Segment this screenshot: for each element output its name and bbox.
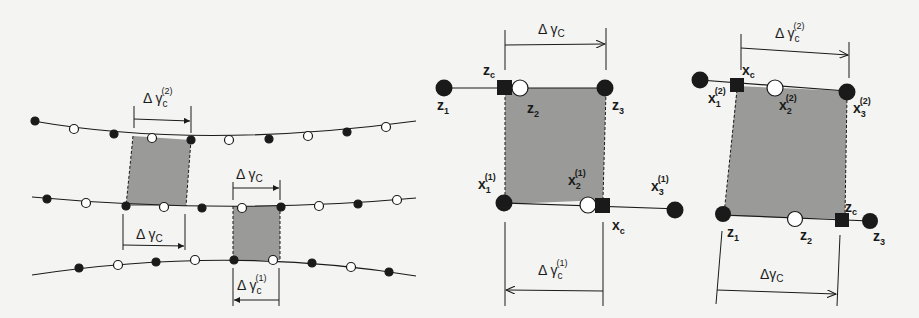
label-x3-1: x3(1) [651,174,669,197]
point-z2-right [788,212,803,227]
label-delta-gamma-c-mid-right: Δ γC [236,166,263,184]
label-xc-right: xc [742,62,755,80]
shaded-region-upper [126,136,191,206]
label-delta-gamma-c1-bottom: Δ γc(1) [538,258,567,281]
label-x1-1: x1(1) [478,172,496,195]
point-xc [595,198,610,213]
label-z1: z1 [437,97,449,116]
point-x1-1 [496,195,513,212]
curve-top [33,121,416,136]
label-x1-2: x1(2) [708,86,726,109]
label-z1-right: z1 [727,224,739,243]
point-z3-right [862,213,878,229]
point-x2-2 [767,80,783,96]
point-z3 [597,80,614,97]
point-x3-1 [667,202,684,219]
label-delta-gamma-c1: Δ γc(1) [237,273,266,296]
label-xc: xc [612,217,625,236]
panel-middle: Δ γC zc z1 z2 z3 x1(1) x2(1) x3(1) xc Δ … [436,21,684,306]
label-delta-gamma-c-top: Δ γC [538,21,565,39]
label-z3-right: z3 [873,228,885,247]
point-z2 [512,80,528,96]
label-delta-gamma-c2-top: Δ γc(2) [775,21,804,44]
point-xc-2 [730,78,744,92]
label-z2-right: z2 [800,227,812,246]
label-zc: zc [483,62,495,80]
curve-bottom [32,260,416,276]
point-x3-2 [839,84,856,101]
point-x1-2 [692,72,709,89]
label-delta-gamma-c-bottom: ΔγC [760,266,784,284]
label-zc-right: zc [845,199,857,217]
shaded-region-lower [233,206,280,260]
label-delta-gamma-c2: Δ γc(2) [143,86,172,109]
panel-left: Δ γc(2) Δ γC Δ γC Δ γc(1) [31,86,416,306]
label-x3-2: x3(2) [853,96,871,119]
panel-right: Δ γc(2) xc x1(2) x2(2) x3(2) z1 z2 zc z3… [692,21,886,306]
point-zc [497,80,512,95]
label-z3: z3 [612,97,624,116]
point-zc-right [835,213,849,227]
point-z1 [436,80,453,97]
point-z1-right [715,206,731,222]
label-delta-gamma-c-mid-left: Δ γC [136,226,163,244]
shaded-region-middle [505,88,606,204]
point-x2-1 [580,197,596,213]
figure: Δ γc(2) Δ γC Δ γC Δ γc(1) [0,0,919,318]
